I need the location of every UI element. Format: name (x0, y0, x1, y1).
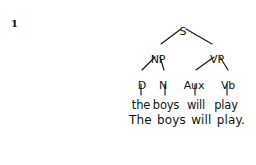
tree-edge-s-np (161, 29, 181, 44)
tree-node-np: NP (151, 54, 165, 65)
tree-terminal-play: play (214, 99, 238, 112)
tree-node-vp: VP (210, 54, 224, 65)
tree-terminal-will: will (187, 99, 205, 112)
tree-edge-s-vp (186, 29, 212, 44)
tree-terminal-boys: boys (153, 99, 179, 112)
tree-node-vb: Vb (221, 80, 235, 91)
tree-node-d: D (138, 80, 146, 91)
tree-terminal-the: the (132, 99, 150, 112)
tree-node-aux: Aux (184, 80, 204, 91)
tree-node-n: N (159, 80, 167, 91)
tree-branch-lines (0, 0, 256, 165)
sentence-gloss: The boys will play. (129, 113, 245, 127)
tree-node-s: S (180, 26, 187, 37)
figure-canvas: 1 SNPVPDNAuxVb theboyswillplay The boys … (0, 0, 256, 165)
